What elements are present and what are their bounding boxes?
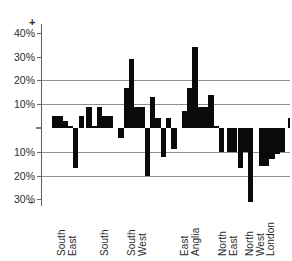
x-axis-label-line: East xyxy=(229,231,240,256)
bar xyxy=(166,118,171,128)
x-axis-label-line: North xyxy=(245,231,256,256)
y-tick-label: 10% xyxy=(0,99,35,110)
x-axis-label-north-east: NorthEast xyxy=(218,231,239,256)
bar xyxy=(280,128,285,152)
y-tick-label: 30% xyxy=(0,194,35,205)
bar xyxy=(118,128,123,138)
x-axis-label-london: London xyxy=(266,222,277,256)
x-axis-label-line: South xyxy=(127,229,138,256)
x-axis-label-line: North xyxy=(218,231,229,256)
x-axis-label-south-east: SouthEast xyxy=(57,229,78,256)
bar xyxy=(73,128,78,168)
y-tick-label: 10% xyxy=(0,147,35,158)
x-axis-label-line: South xyxy=(57,229,68,256)
y-tick-label: 40% xyxy=(0,28,35,39)
bar xyxy=(108,116,113,128)
x-axis-label-east-anglia: EastAnglia xyxy=(180,228,201,256)
x-axis-label-line: Anglia xyxy=(191,228,202,256)
x-axis-label-south-west: SouthWest xyxy=(127,229,148,256)
bar xyxy=(288,118,290,128)
x-axis-label-north-west: NorthWest xyxy=(245,231,266,256)
bar xyxy=(171,128,176,149)
bar xyxy=(79,116,84,128)
x-axis-label-line: London xyxy=(266,222,277,256)
bar xyxy=(155,118,160,128)
x-axis-label-line: South xyxy=(100,229,111,256)
bar-chart: + - 40%30%20%10%10%20%30% SouthEastSouth… xyxy=(0,0,292,261)
x-axis-label-line: East xyxy=(68,229,79,256)
bar xyxy=(161,128,166,157)
bar xyxy=(248,128,253,202)
y-tick-label: 20% xyxy=(0,75,35,86)
plot-area xyxy=(42,24,290,206)
bar xyxy=(145,128,150,176)
y-tick-label: 20% xyxy=(0,171,35,182)
bar xyxy=(208,95,213,128)
bar xyxy=(219,128,224,152)
x-axis-label-line: East xyxy=(180,228,191,256)
x-axis-label-south: South xyxy=(100,229,111,256)
x-axis-label-line: West xyxy=(138,229,149,256)
bar xyxy=(139,107,144,128)
y-tick-label: 30% xyxy=(0,52,35,63)
